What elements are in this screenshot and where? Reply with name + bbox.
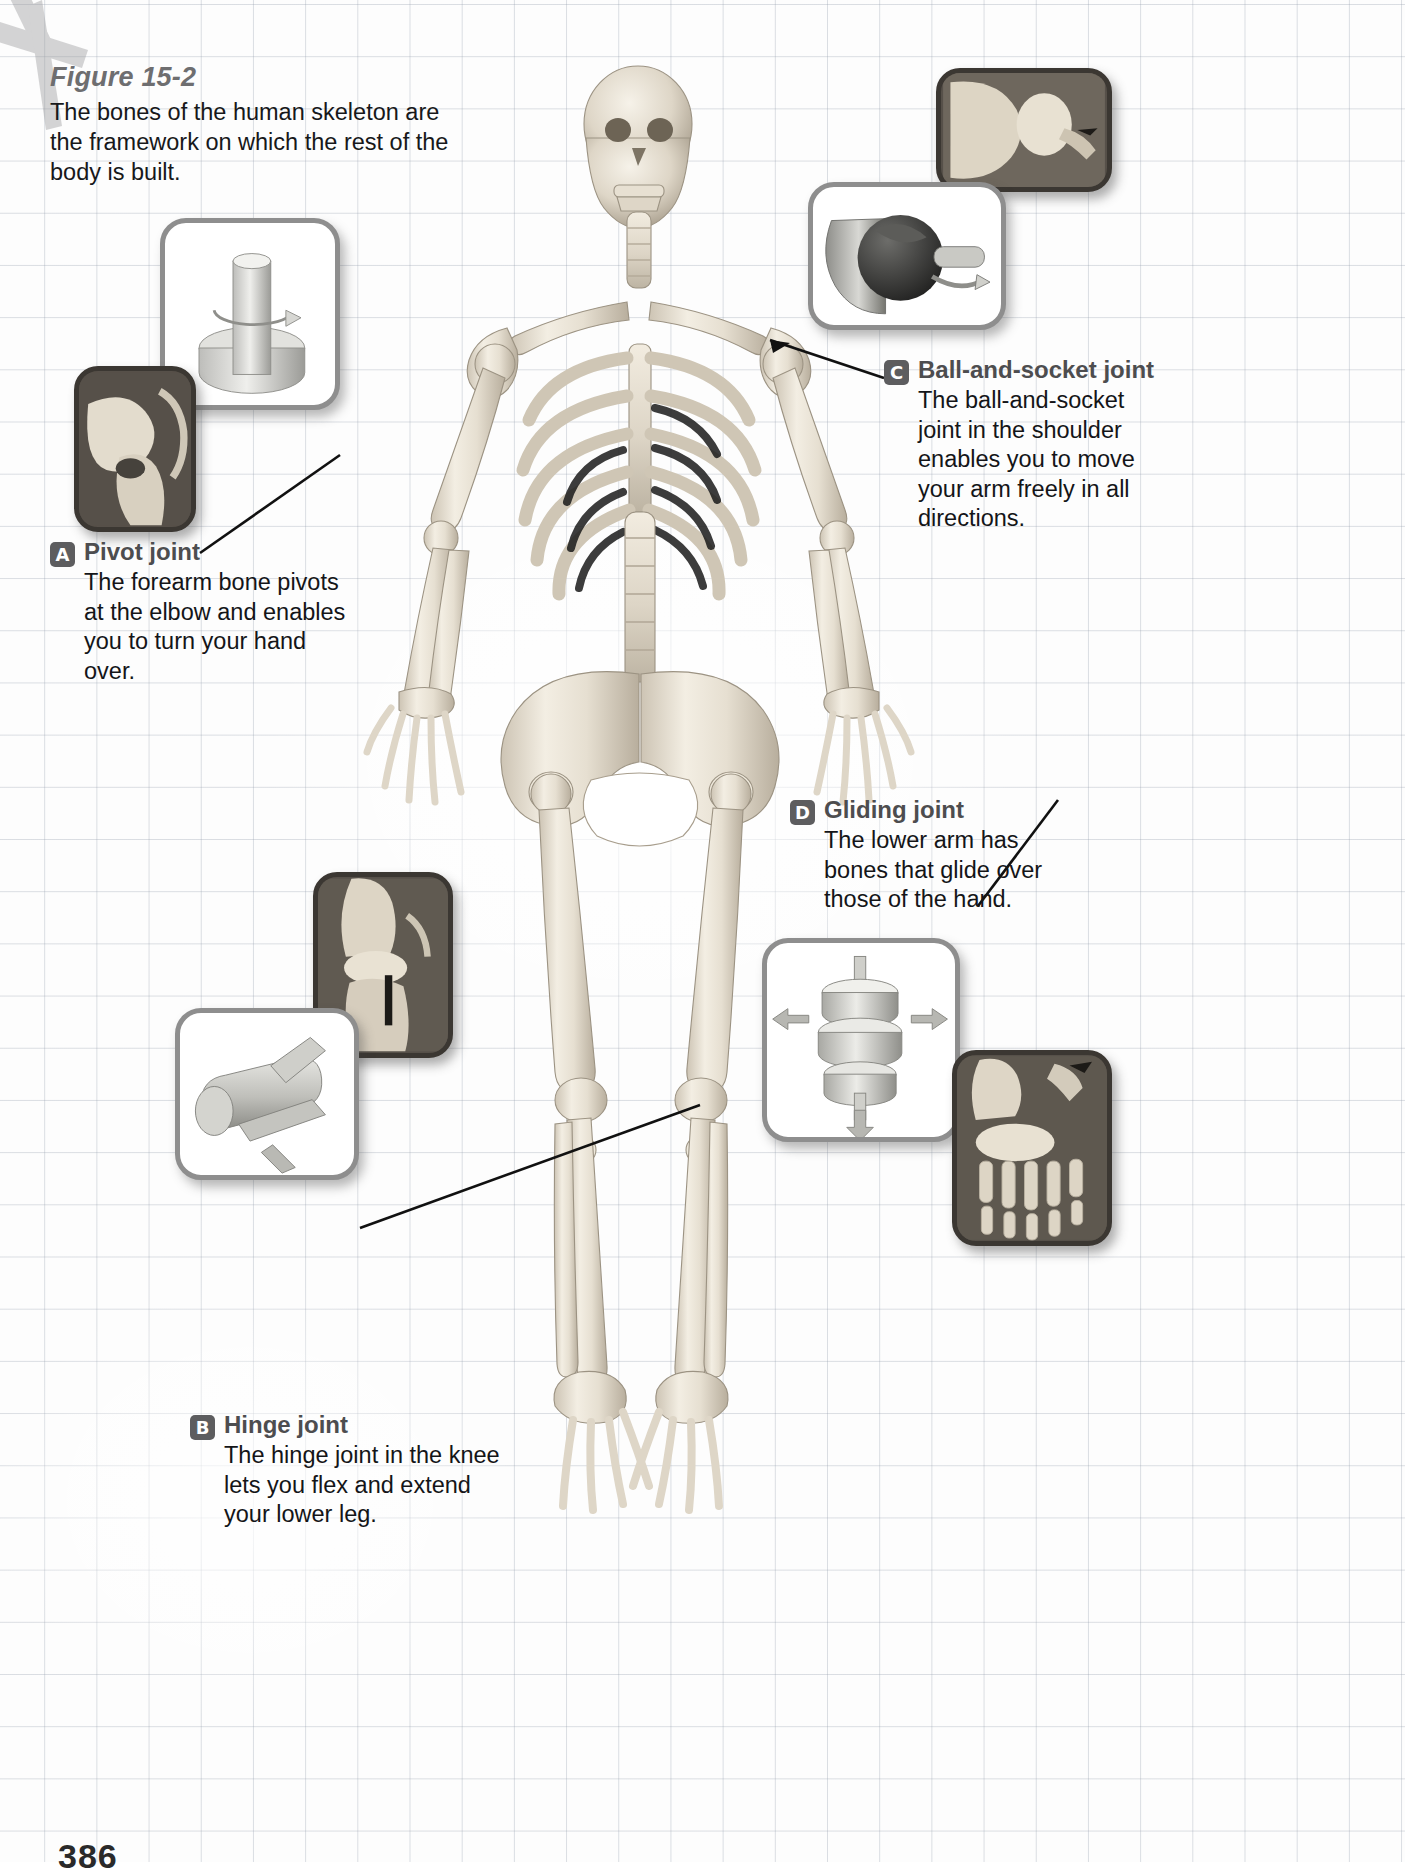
- badge-c: C: [884, 360, 909, 385]
- panel-hinge-joint-model: [175, 1008, 359, 1180]
- caption-pivot-joint: A Pivot joint The forearm bone pivots at…: [50, 538, 350, 686]
- lumbar-spine: [625, 512, 655, 682]
- panel-hand-bones-photograph: [952, 1050, 1112, 1246]
- caption-title-ball-socket: Ball-and-socket joint: [918, 356, 1154, 384]
- left-leg: [531, 774, 649, 1510]
- cervical-spine: [627, 212, 651, 288]
- badge-d: D: [790, 800, 815, 825]
- caption-body-hinge: The hinge joint in the knee lets you fle…: [190, 1441, 520, 1530]
- badge-b: B: [190, 1415, 215, 1440]
- badge-a: A: [50, 542, 75, 567]
- caption-body-ball-socket: The ball-and-socket joint in the shoulde…: [884, 386, 1174, 534]
- page-number: 386: [58, 1837, 118, 1872]
- panel-elbow-photograph: [74, 366, 196, 532]
- caption-gliding-joint: D Gliding joint The lower arm has bones …: [790, 796, 1080, 915]
- panel-shoulder-photograph: [936, 68, 1112, 192]
- gliding-joint-model-icon: [767, 943, 955, 1137]
- panel-ball-and-socket-model: [808, 182, 1006, 330]
- caption-body-gliding: The lower arm has bones that glide over …: [790, 826, 1080, 915]
- caption-hinge-joint: B Hinge joint The hinge joint in the kne…: [190, 1411, 520, 1530]
- elbow-bone-photo: [79, 371, 191, 527]
- caption-title-gliding: Gliding joint: [824, 796, 964, 824]
- skull: [584, 66, 692, 228]
- hinge-joint-model-icon: [180, 1013, 354, 1175]
- right-leg: [633, 774, 751, 1510]
- caption-title-hinge: Hinge joint: [224, 1411, 348, 1439]
- left-arm: [367, 368, 505, 802]
- hand-bones-photo: [957, 1055, 1107, 1241]
- caption-title-pivot: Pivot joint: [84, 538, 200, 566]
- caption-ball-and-socket-joint: C Ball-and-socket joint The ball-and-soc…: [884, 356, 1174, 534]
- shoulder-bone-photo: [941, 73, 1107, 187]
- ball-and-socket-model-icon: [813, 187, 1001, 325]
- panel-gliding-joint-model: [762, 938, 960, 1142]
- caption-body-pivot: The forearm bone pivots at the elbow and…: [50, 568, 350, 686]
